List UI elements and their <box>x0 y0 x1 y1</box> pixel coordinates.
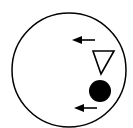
open-triangle-icon <box>93 51 114 74</box>
filled-dot-icon <box>89 80 111 102</box>
outer-circle <box>12 13 126 127</box>
diagram-canvas <box>0 0 133 128</box>
arrow-lower-icon <box>74 104 97 112</box>
arrow-upper-icon <box>72 36 95 44</box>
